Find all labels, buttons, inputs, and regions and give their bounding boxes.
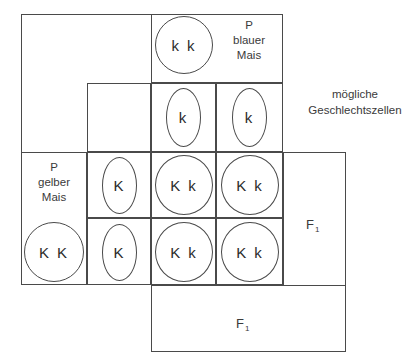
f1-label-bottom: F1 — [236, 317, 248, 330]
maternal-parent-label-color: gelber — [21, 175, 87, 190]
paternal-gamete-oval-2: k — [232, 88, 267, 147]
f1-label-bottom-letter: F — [236, 316, 244, 331]
f1-bottom-box — [151, 285, 346, 352]
offspring-circle-r1c2: K k — [221, 155, 279, 215]
gamete-caption: mögliche Geschlechtszellen — [296, 86, 414, 118]
offspring-genotype-r2c2: K k — [236, 245, 264, 260]
paternal-genotype-label: k k — [171, 38, 196, 53]
offspring-genotype-r1c2: K k — [236, 178, 264, 193]
paternal-parent-label-species: Mais — [216, 48, 282, 63]
maternal-genotype-circle: K K — [24, 222, 84, 282]
maternal-parent-label-species: Mais — [21, 190, 87, 205]
maternal-gamete-oval-1: K — [102, 157, 137, 214]
f1-label-right: F1 — [306, 218, 318, 231]
maternal-gamete-label-1: K — [113, 178, 125, 193]
f1-label-bottom-subscript: 1 — [245, 324, 249, 333]
paternal-gamete-label-1: k — [179, 110, 189, 125]
paternal-parent-label-p: P — [216, 18, 282, 33]
punnett-square-diagram: k k P blauer Mais k k P gelber Mais K K … — [0, 0, 416, 362]
maternal-gamete-oval-2: K — [102, 224, 137, 281]
paternal-parent-label-color: blauer — [216, 33, 282, 48]
offspring-circle-r2c1: K k — [155, 222, 213, 282]
offspring-genotype-r1c1: K k — [170, 178, 198, 193]
maternal-parent-label-p: P — [21, 160, 87, 175]
gamete-row-empty-cell — [87, 83, 151, 152]
paternal-gamete-label-2: k — [245, 110, 255, 125]
maternal-genotype-label: K K — [39, 245, 69, 260]
offspring-circle-r1c1: K k — [155, 155, 213, 215]
offspring-circle-r2c2: K k — [221, 222, 279, 282]
f1-label-right-subscript: 1 — [315, 225, 319, 234]
maternal-gamete-label-2: K — [113, 245, 125, 260]
paternal-genotype-circle: k k — [155, 16, 213, 74]
offspring-genotype-r2c1: K k — [170, 245, 198, 260]
paternal-gamete-oval-1: k — [166, 88, 201, 147]
f1-label-right-letter: F — [306, 217, 314, 232]
